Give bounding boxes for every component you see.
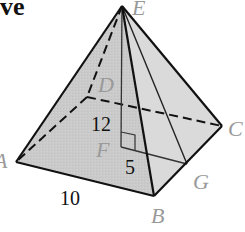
apothem-value: 5 bbox=[125, 157, 135, 177]
base-edge-value: 10 bbox=[60, 188, 80, 208]
pyramid-diagram bbox=[0, 0, 245, 232]
label-F: F bbox=[96, 139, 109, 161]
label-G: G bbox=[193, 171, 209, 193]
pyramid-figure: ve E A B C D F G 12 5 10 bbox=[0, 0, 245, 232]
label-D: D bbox=[98, 74, 114, 96]
label-C: C bbox=[228, 118, 243, 140]
label-E: E bbox=[132, 0, 145, 19]
label-B: B bbox=[151, 205, 164, 227]
height-value: 12 bbox=[91, 114, 111, 134]
label-A: A bbox=[0, 150, 7, 172]
